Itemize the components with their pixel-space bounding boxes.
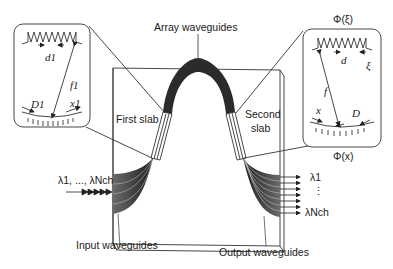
- label-first-slab: First slab: [116, 114, 159, 125]
- label-phi-xi: Φ(ξ): [333, 14, 353, 25]
- label-input-wavelengths: λ1, ..., λNch: [58, 175, 113, 186]
- right-inset-f: f: [324, 86, 327, 97]
- label-second-slab-1: Second: [245, 109, 281, 120]
- right-inset-D: D: [352, 108, 360, 119]
- label-array-waveguides: Array waveguides: [154, 22, 237, 33]
- left-inset-D1: D1: [31, 99, 44, 110]
- left-inset-x1: x1: [70, 98, 80, 109]
- chip-substrate: [113, 68, 284, 252]
- label-output-lambda-last: λNch: [305, 207, 329, 218]
- label-phi-x: Φ(x): [333, 151, 354, 162]
- label-output-lambda-first: λ1: [310, 172, 321, 183]
- left-inset-f1: f1: [70, 80, 79, 91]
- input-arrows: [66, 189, 112, 195]
- left-inset-d1: d1: [45, 52, 56, 63]
- label-input-waveguides: Input waveguides: [76, 240, 158, 251]
- right-inset-x: x: [316, 105, 321, 116]
- right-inset-xi: ξ: [366, 60, 371, 71]
- label-output-dots: ⋮: [313, 186, 324, 197]
- right-inset-d: d: [341, 55, 347, 66]
- label-output-waveguides: Output waveguides: [219, 247, 309, 258]
- awg-diagram: [0, 0, 393, 269]
- label-second-slab-2: slab: [251, 123, 270, 134]
